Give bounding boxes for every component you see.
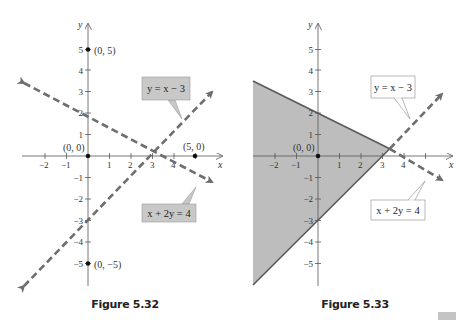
point-label: (0, 5) (94, 45, 116, 57)
point-5-0 (193, 154, 198, 159)
y-tick-label: −2 (73, 194, 83, 204)
x-tick-label: 4 (401, 160, 406, 170)
point-0-neg5 (86, 261, 91, 266)
x-tick-label: 2 (358, 160, 363, 170)
y-tick-label: 4 (79, 66, 84, 76)
point-0-5 (86, 47, 91, 52)
point-0-0 (86, 154, 91, 159)
y-tick-label: −1 (73, 173, 83, 183)
figure-5-32: x y −2 −1 1 2 3 4 (22, 19, 223, 311)
y-tick-label: −5 (303, 259, 313, 269)
figure-5-33: x y −2 −1 1 2 3 4 5 4 (253, 19, 454, 311)
x-tick-label: −1 (291, 160, 301, 170)
figures-canvas: x y −2 −1 1 2 3 4 (0, 0, 470, 328)
point-label: (0, −5) (94, 259, 121, 271)
equation-label: y = x − 3 (147, 83, 185, 94)
equation-label: x + 2y = 4 (376, 205, 420, 216)
figure-caption: Figure 5.33 (321, 298, 389, 311)
y-tick-label: 3 (79, 87, 84, 97)
x-axis-letter: x (448, 159, 454, 170)
point-label: (0, 0) (293, 142, 315, 154)
x-tick-label: 2 (128, 160, 133, 170)
line-y-eq-x-minus-3 (24, 92, 212, 286)
y-tick-label: −3 (73, 216, 83, 226)
x-tick-label: 1 (337, 160, 342, 170)
y-tick-label: 1 (309, 130, 314, 140)
y-tick-label: 3 (309, 87, 314, 97)
x-tick-label: −2 (39, 160, 49, 170)
y-tick-label: −4 (73, 237, 83, 247)
x-axis-letter: x (217, 159, 223, 170)
y-tick-label: 2 (79, 108, 84, 118)
y-axis-letter: y (77, 19, 83, 30)
y-tick-label: −4 (303, 237, 313, 247)
y-tick-label: −5 (73, 259, 83, 269)
equation-callout-x-plus-2y-eq-4: x + 2y = 4 (371, 181, 425, 220)
y-tick-label: 2 (309, 108, 314, 118)
equation-callout-y-eq-x-minus-3: y = x − 3 (142, 77, 190, 119)
figure-caption: Figure 5.32 (91, 298, 159, 311)
y-tick-label: 5 (79, 45, 84, 55)
point-label: (0, 0) (63, 142, 85, 154)
equation-callout-y-eq-x-minus-3: y = x − 3 (371, 76, 415, 119)
y-tick-label: 1 (79, 130, 84, 140)
equation-label: y = x − 3 (374, 82, 412, 93)
y-tick-label: −3 (303, 216, 313, 226)
x-tick-label: −1 (61, 160, 71, 170)
line-x-plus-2y-eq-4-dashed (390, 149, 442, 180)
x-tick-label: −2 (269, 160, 279, 170)
y-tick-label: −1 (303, 173, 313, 183)
y-axis-letter: y (307, 19, 313, 30)
y-tick-label: 4 (309, 66, 314, 76)
x-tick-label: 3 (150, 160, 155, 170)
x-tick-label: 1 (107, 160, 112, 170)
y-tick-label: −2 (303, 194, 313, 204)
point-0-0 (316, 154, 321, 159)
equation-callout-x-plus-2y-eq-4: x + 2y = 4 (142, 187, 196, 222)
point-label: (5, 0) (183, 141, 205, 153)
feasible-region (253, 81, 390, 285)
y-tick-label: 5 (309, 45, 314, 55)
x-tick-label: 3 (380, 160, 385, 170)
equation-label: x + 2y = 4 (147, 208, 191, 219)
page-corner-marker (438, 312, 456, 320)
